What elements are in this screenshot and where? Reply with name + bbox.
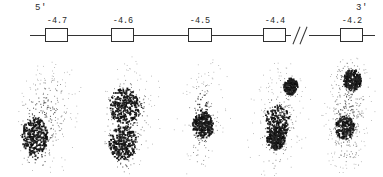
site-box--4-6[interactable] xyxy=(111,28,134,42)
site-box--4-5[interactable] xyxy=(188,28,212,42)
three-prime-label: 3' xyxy=(356,3,368,13)
autoradiograph-panel-group xyxy=(0,52,383,177)
double-slash-break-icon xyxy=(291,27,309,44)
panel-4-7 xyxy=(14,52,92,177)
panel-4-2-canvas xyxy=(318,52,380,177)
panel-4-4 xyxy=(244,52,318,177)
gene-map: 5' 3' -4.7-4.6-4.5-4.4-4.2 xyxy=(0,0,383,52)
figure-root: 5' 3' -4.7-4.6-4.5-4.4-4.2 xyxy=(0,0,383,177)
five-prime-label: 5' xyxy=(35,3,47,13)
site-box--4-7[interactable] xyxy=(45,28,68,42)
site-label--4-6: -4.6 xyxy=(105,16,141,26)
panel-4-5-canvas xyxy=(172,52,238,177)
site-label--4-2: -4.2 xyxy=(334,16,370,26)
site-label--4-5: -4.5 xyxy=(182,16,218,26)
site-box--4-2[interactable] xyxy=(340,28,363,42)
panel-4-7-canvas xyxy=(14,52,92,177)
panel-4-4-canvas xyxy=(244,52,318,177)
panel-4-6-canvas xyxy=(96,52,168,177)
panel-4-5 xyxy=(172,52,238,177)
panel-4-2 xyxy=(318,52,380,177)
panel-4-6 xyxy=(96,52,168,177)
axis-segment-1 xyxy=(30,35,291,36)
site-label--4-7: -4.7 xyxy=(39,16,75,26)
site-label--4-4: -4.4 xyxy=(257,16,293,26)
site-box--4-4[interactable] xyxy=(263,28,286,42)
